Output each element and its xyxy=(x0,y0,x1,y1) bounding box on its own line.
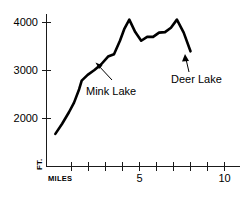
mink-lake-leader xyxy=(96,63,113,81)
annotation-deer-lake: Deer Lake xyxy=(171,74,222,85)
annotation-mink-lake: Mink Lake xyxy=(86,86,136,97)
y-tick-label-3000: 3000 xyxy=(5,65,38,76)
y-tick-label-4000: 4000 xyxy=(5,17,38,28)
deer-lake-leader xyxy=(182,54,189,72)
deer-lake-arrow-head xyxy=(182,54,189,62)
x-axis-unit-label: MILES xyxy=(48,175,72,183)
elevation-profile-chart: 4000 3000 2000 FT. MILES 5 10 Mink Lake … xyxy=(0,0,249,199)
y-axis-unit-label: FT. xyxy=(36,159,44,170)
x-tick-label-10: 10 xyxy=(215,173,234,184)
x-tick-label-5: 5 xyxy=(130,173,149,184)
y-tick-label-2000: 2000 xyxy=(5,113,38,124)
